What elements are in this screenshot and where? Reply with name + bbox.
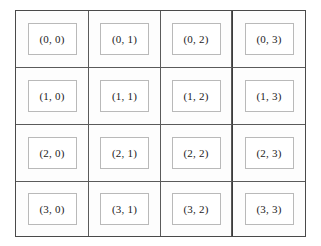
grid-cell[interactable]: (0, 1) [89, 11, 161, 68]
grid-cell[interactable]: (3, 3) [232, 182, 305, 236]
cell-item-box[interactable]: (3, 1) [100, 193, 149, 225]
cell-coordinate-label: (3, 1) [112, 204, 137, 215]
cell-coordinate-label: (2, 2) [183, 148, 208, 159]
cell-coordinate-label: (0, 2) [183, 34, 208, 45]
cell-item-box[interactable]: (1, 0) [28, 80, 77, 112]
grid-cell[interactable]: (0, 3) [232, 11, 305, 68]
cell-coordinate-label: (2, 1) [112, 148, 137, 159]
grid-cell[interactable]: (1, 3) [232, 68, 305, 125]
cell-coordinate-label: (3, 2) [183, 204, 208, 215]
grid-cell[interactable]: (1, 1) [89, 68, 161, 125]
grid-cell[interactable]: (3, 2) [161, 182, 232, 236]
cell-coordinate-label: (2, 3) [256, 148, 281, 159]
grid-cell[interactable]: (0, 2) [161, 11, 232, 68]
cell-item-box[interactable]: (1, 3) [245, 80, 294, 112]
grid-diagram-canvas: (0, 0) (0, 1) (0, 2) (0, 3) (1, 0) [0, 0, 321, 246]
cell-item-box[interactable]: (2, 3) [245, 137, 294, 169]
cell-coordinate-label: (0, 1) [112, 34, 137, 45]
cell-item-box[interactable]: (0, 0) [28, 23, 77, 55]
grid-cell[interactable]: (1, 0) [16, 68, 89, 125]
cell-item-box[interactable]: (2, 1) [100, 137, 149, 169]
cell-coordinate-label: (1, 1) [112, 91, 137, 102]
grid-cell[interactable]: (3, 0) [16, 182, 89, 236]
cell-item-box[interactable]: (3, 0) [28, 193, 77, 225]
cell-item-box[interactable]: (2, 2) [172, 137, 221, 169]
grid-container: (0, 0) (0, 1) (0, 2) (0, 3) (1, 0) [15, 10, 306, 237]
cell-item-box[interactable]: (1, 1) [100, 80, 149, 112]
grid-cell[interactable]: (2, 2) [161, 125, 232, 182]
cell-coordinate-label: (0, 3) [256, 34, 281, 45]
cell-item-box[interactable]: (1, 2) [172, 80, 221, 112]
cell-coordinate-label: (0, 0) [39, 34, 64, 45]
cell-item-box[interactable]: (0, 3) [245, 23, 294, 55]
grid-cell[interactable]: (3, 1) [89, 182, 161, 236]
cell-coordinate-label: (2, 0) [39, 148, 64, 159]
grid-cell[interactable]: (2, 3) [232, 125, 305, 182]
cell-coordinate-label: (1, 2) [183, 91, 208, 102]
grid-cell[interactable]: (2, 0) [16, 125, 89, 182]
cell-item-box[interactable]: (3, 2) [172, 193, 221, 225]
cell-item-box[interactable]: (2, 0) [28, 137, 77, 169]
cell-coordinate-label: (3, 3) [256, 204, 281, 215]
cell-coordinate-label: (1, 3) [256, 91, 281, 102]
cell-coordinate-label: (3, 0) [39, 204, 64, 215]
cell-coordinate-label: (1, 0) [39, 91, 64, 102]
cell-item-box[interactable]: (0, 2) [172, 23, 221, 55]
grid-cell[interactable]: (2, 1) [89, 125, 161, 182]
cell-item-box[interactable]: (3, 3) [245, 193, 294, 225]
cell-item-box[interactable]: (0, 1) [100, 23, 149, 55]
grid-cell[interactable]: (1, 2) [161, 68, 232, 125]
grid-cell[interactable]: (0, 0) [16, 11, 89, 68]
